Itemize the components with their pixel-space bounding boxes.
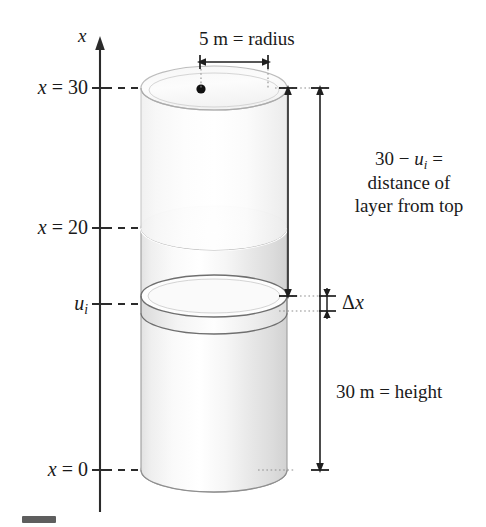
slab-thickness-measure (319, 288, 336, 319)
cylinder-top-rim (141, 66, 287, 110)
center-point-marker (196, 84, 205, 93)
axis-tick-label-x30: x = 30 (8, 76, 88, 98)
axis-tick-label-x0: x = 0 (8, 458, 88, 480)
axis-arrowhead (95, 36, 105, 50)
layer-slab (141, 275, 287, 334)
slab-thickness-annotation: Δx (342, 291, 364, 313)
radius-annotation: 5 m = radius (199, 28, 295, 49)
axis-tick-label-ui: ui (8, 292, 88, 317)
axis-name-label: x (78, 25, 86, 46)
distance-annotation-line-2: distance of (334, 172, 484, 195)
cylinder-upper-body (141, 88, 287, 250)
distance-from-top-annotation: 30 − ui = distance of layer from top (334, 148, 484, 218)
caption-marker (22, 516, 56, 523)
axis-tick-label-x20: x = 20 (8, 216, 88, 238)
figure-container: x x = 30 x = 20 ui x = 0 5 m = radius 30… (0, 0, 486, 527)
distance-annotation-line-1: 30 − ui = (334, 148, 484, 172)
axis-dashed-leaders (105, 88, 142, 470)
height-annotation: 30 m = height (336, 381, 442, 402)
vertical-axis (95, 36, 105, 512)
height-measure (311, 85, 329, 473)
distance-annotation-line-3: layer from top (334, 195, 484, 218)
cylinder-lower-wall (141, 313, 287, 492)
